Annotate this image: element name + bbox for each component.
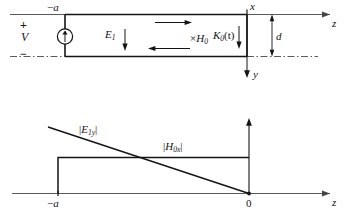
axis-y-label: y [253, 69, 258, 80]
tick-label-origin: 0 [246, 198, 252, 209]
electric-curve-bar-right: | [95, 123, 97, 135]
source-voltage-label: V [21, 31, 28, 43]
electric-field-arrowhead [122, 44, 127, 51]
magnetic-field-step-curve [58, 158, 249, 194]
bottom-plot-group [12, 118, 330, 196]
electric-curve-label: |E1y| [79, 124, 97, 136]
magnetic-curve-symbol: H [165, 140, 173, 152]
electric-field-label: E1 [105, 29, 115, 41]
electric-field-symbol: E [105, 28, 112, 40]
plot-z-axis-arrowhead [322, 191, 330, 197]
tick-label-neg-a-symbol: a [53, 197, 59, 209]
magnetic-field-label: ×H0 [190, 33, 208, 45]
origin-point-marker [247, 192, 251, 196]
axis-z-label-bottom: z [332, 197, 336, 208]
surface-current-arrowhead [236, 42, 241, 49]
electric-curve-symbol: E [81, 123, 88, 135]
electric-field-subscript: 1 [112, 33, 116, 42]
magnetic-field-subscript: 0 [204, 37, 208, 46]
bottom-plate-current-arrowhead [148, 46, 155, 51]
surface-current-argument: (t) [224, 29, 234, 41]
magnetic-field-symbol: H [196, 32, 204, 44]
gap-dimension-arrowhead-top [270, 15, 275, 22]
gap-dimension-arrowhead-bottom [270, 50, 275, 57]
label-top-neg-a-symbol: a [53, 1, 59, 13]
axis-z-label-top: z [332, 18, 336, 29]
electric-curve-subscript: 1y [88, 128, 95, 137]
surface-current-label: K0(t) [213, 30, 234, 42]
figure-canvas [0, 0, 348, 216]
magnetic-curve-label: |H0x| [163, 141, 182, 153]
top-plate-current-arrowhead [185, 20, 192, 25]
axis-x-label: x [250, 1, 255, 12]
label-top-neg-a: −a [47, 2, 59, 13]
z-axis-arrowhead-top [322, 12, 330, 18]
top-diagram-group [10, 10, 330, 79]
magnetic-curve-bar-right: | [180, 140, 182, 152]
y-axis-arrowhead [244, 70, 250, 78]
gap-dimension-label: d [276, 31, 282, 42]
tick-label-neg-a: −a [47, 198, 59, 209]
terminal-minus-label: − [20, 48, 27, 60]
electric-field-linear-curve [48, 127, 249, 194]
plot-vertical-axis-arrowhead [246, 118, 252, 126]
